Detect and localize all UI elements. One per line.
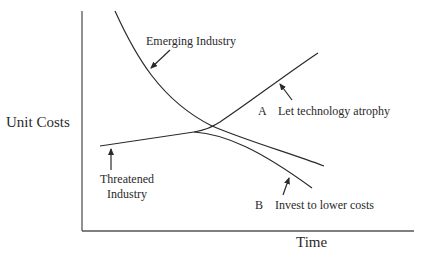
option-b-label: BInvest to lower costs — [255, 198, 374, 213]
threatened-industry-label: Threatened Industry — [100, 172, 154, 202]
option-b-text: Invest to lower costs — [275, 198, 374, 212]
emerging-arrow-icon — [151, 50, 170, 68]
option-a-curve — [194, 53, 318, 132]
option-a-text: Let technology atrophy — [278, 104, 390, 118]
y-axis-label: Unit Costs — [6, 114, 70, 131]
threatened-label-line1: Threatened — [100, 172, 154, 187]
option-a-label: ALet technology atrophy — [258, 104, 390, 119]
diagram-canvas: Unit Costs Time Emerging Industry Threat… — [0, 0, 423, 259]
threatened-industry-line — [100, 132, 194, 146]
x-axis-label: Time — [296, 234, 327, 251]
emerging-industry-label: Emerging Industry — [146, 34, 236, 49]
option-a-key: A — [258, 104, 278, 119]
option-b-arrow-icon — [283, 178, 289, 195]
option-b-curve — [194, 132, 312, 188]
option-b-key: B — [255, 198, 275, 213]
option-a-arrow-icon — [280, 84, 292, 100]
threatened-label-line2: Industry — [100, 187, 154, 202]
